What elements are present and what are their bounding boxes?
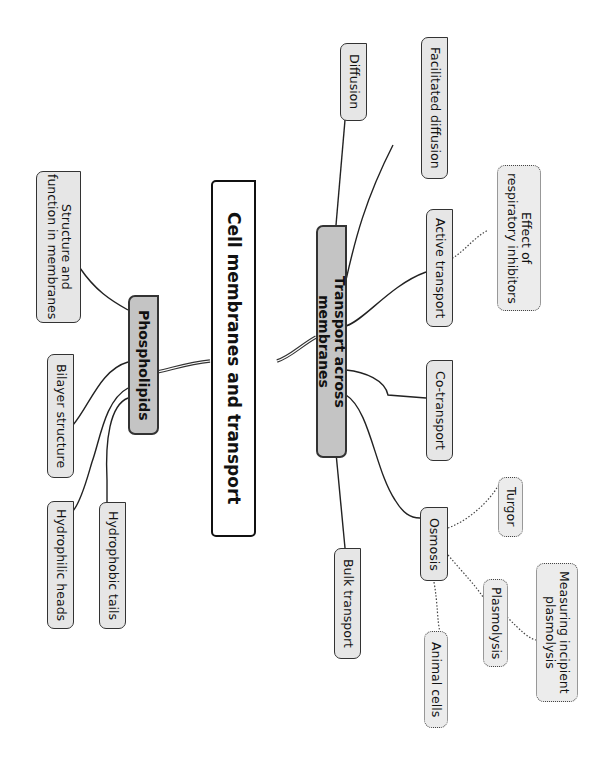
node-co-transport[interactable]: Co-transport (426, 360, 453, 461)
connector-lines (0, 0, 603, 757)
turgor-label: Turgor (503, 487, 517, 526)
root-node[interactable]: Cell membranes and transport (211, 180, 256, 537)
osmosis-label: Osmosis (427, 518, 441, 571)
node-hydrophilic-heads[interactable]: Hydrophilic heads (47, 501, 74, 629)
phospholipids-label: Phospholipids (135, 310, 151, 421)
branch-phospholipids[interactable]: Phospholipids (128, 295, 159, 435)
node-respiratory-inhibitors[interactable]: Effect of respiratory inhibitors (497, 165, 541, 311)
node-plasmolysis[interactable]: Plasmolysis (483, 579, 508, 667)
node-active-transport[interactable]: Active transport (426, 209, 453, 327)
transport-label: Transport across membranes (315, 227, 347, 456)
mind-map-canvas: Cell membranes and transport Phospholipi… (0, 0, 603, 757)
node-osmosis[interactable]: Osmosis (420, 507, 448, 581)
incipient-label: Measuring incipient plasmolysis (543, 571, 572, 694)
root-label: Cell membranes and transport (224, 212, 244, 504)
cotransport-label: Co-transport (432, 371, 446, 450)
inhibitors-label: Effect of respiratory inhibitors (505, 173, 534, 304)
node-bulk-transport[interactable]: Bulk transport (334, 548, 361, 659)
node-measuring-incipient-plasmolysis[interactable]: Measuring incipient plasmolysis (536, 563, 578, 702)
structure-label: Structure and function in membranes (44, 174, 73, 319)
active-label: Active transport (432, 218, 446, 318)
node-turgor[interactable]: Turgor (498, 477, 523, 537)
facilitated-label: Facilitated diffusion (427, 47, 441, 169)
animal-label: Animal cells (429, 642, 443, 717)
bilayer-label: Bilayer structure (53, 364, 67, 468)
node-bilayer-structure[interactable]: Bilayer structure (47, 354, 74, 478)
hydrophobic-label: Hydrophobic tails (105, 511, 119, 620)
node-animal-cells[interactable]: Animal cells (424, 631, 448, 728)
node-hydrophobic-tails[interactable]: Hydrophobic tails (99, 502, 126, 629)
bulk-label: Bulk transport (340, 559, 354, 648)
diffusion-label: Diffusion (346, 54, 360, 109)
branch-transport[interactable]: Transport across membranes (316, 225, 347, 458)
node-structure-and-function[interactable]: Structure and function in membranes (36, 171, 81, 323)
hydrophilic-label: Hydrophilic heads (53, 509, 67, 621)
plasmolysis-label: Plasmolysis (488, 587, 502, 659)
node-facilitated-diffusion[interactable]: Facilitated diffusion (421, 37, 448, 179)
node-diffusion[interactable]: Diffusion (340, 43, 367, 121)
